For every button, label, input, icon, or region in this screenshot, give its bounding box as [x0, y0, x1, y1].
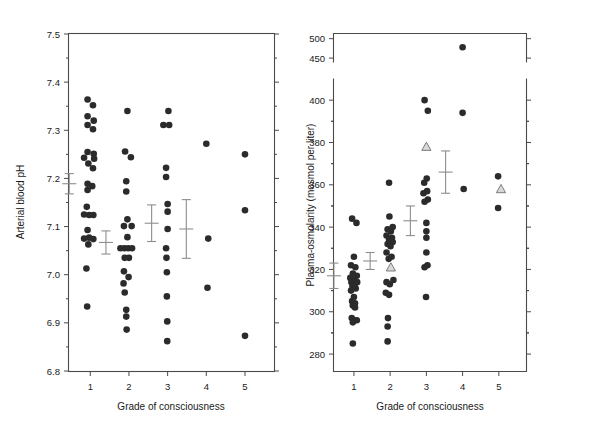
data-point — [242, 151, 249, 158]
data-point — [85, 160, 92, 167]
data-point — [90, 102, 97, 109]
osm-x-axis-title: Grade of consciousness — [376, 401, 483, 412]
data-point — [83, 265, 90, 272]
figure-two-panel-scatter: 6.86.97.07.17.27.37.47.5 12345 Arterial … — [0, 0, 591, 424]
osm-data-points — [347, 44, 506, 347]
data-point — [166, 122, 173, 129]
x-tick-label: 5 — [242, 381, 247, 392]
data-point — [121, 223, 128, 230]
osm-y-ticks — [329, 39, 531, 354]
data-point — [122, 148, 129, 155]
data-point — [84, 303, 91, 310]
x-tick-label: 1 — [88, 381, 93, 392]
data-point — [164, 338, 171, 345]
osm-plot-svg: 280300320340360380400450500 12345 Plasma… — [295, 0, 591, 424]
data-point — [495, 173, 502, 180]
data-point — [90, 126, 97, 133]
data-point — [495, 205, 502, 212]
data-point — [128, 223, 135, 230]
ph-x-axis-title: Grade of consciousness — [117, 401, 224, 412]
data-point — [123, 307, 130, 314]
y-tick-label: 6.8 — [47, 366, 60, 377]
data-point — [423, 294, 430, 301]
y-tick-label: 7.5 — [47, 29, 60, 40]
ph-data-points — [81, 96, 249, 344]
data-point — [84, 96, 91, 103]
data-point — [353, 220, 360, 227]
data-point — [459, 110, 466, 117]
data-point — [84, 227, 91, 234]
osm-y-axis-title: Plasma-osmolarity (mosmol per liter) — [305, 124, 316, 287]
y-tick-label: 7.4 — [47, 77, 60, 88]
data-point-triangle — [496, 184, 505, 192]
data-point — [123, 188, 130, 195]
y-tick-label: 7.3 — [47, 125, 60, 136]
data-point — [385, 256, 392, 263]
panel-arterial-blood-ph: 6.86.97.07.17.27.37.47.5 12345 Arterial … — [0, 0, 296, 424]
data-point — [460, 186, 467, 193]
data-point — [423, 220, 430, 227]
data-point — [84, 149, 91, 156]
data-point — [350, 319, 357, 326]
data-point — [164, 293, 171, 300]
data-point — [128, 154, 135, 161]
data-point — [205, 235, 212, 242]
data-point — [203, 140, 210, 147]
x-tick-label: 1 — [351, 381, 356, 392]
data-point — [90, 165, 97, 172]
data-point — [164, 208, 171, 215]
data-point — [126, 255, 133, 262]
data-point — [350, 340, 357, 347]
data-point — [163, 245, 170, 252]
data-point — [90, 212, 97, 219]
data-point — [84, 122, 91, 129]
data-point — [423, 249, 430, 256]
x-tick-label: 4 — [204, 381, 209, 392]
data-point — [81, 154, 88, 161]
data-point — [84, 113, 91, 120]
data-point — [123, 313, 130, 320]
y-tick-label: 7.1 — [47, 221, 60, 232]
x-tick-label: 2 — [126, 381, 131, 392]
y-tick-label: 280 — [309, 349, 325, 360]
data-point — [164, 226, 171, 233]
data-point — [164, 269, 171, 276]
data-point — [120, 280, 127, 287]
data-point — [124, 234, 131, 241]
data-point — [125, 274, 132, 281]
data-point — [421, 198, 428, 205]
y-tick-label: 400 — [309, 95, 325, 106]
data-point — [242, 207, 249, 214]
data-point — [421, 179, 428, 186]
data-point — [386, 179, 393, 186]
data-point — [165, 108, 172, 115]
data-point — [164, 318, 171, 325]
data-point — [85, 241, 92, 248]
x-tick-label: 5 — [496, 381, 501, 392]
ph-x-tick-labels: 12345 — [88, 381, 248, 392]
data-point — [423, 234, 430, 241]
data-point-triangle — [386, 263, 395, 271]
data-point — [163, 174, 170, 181]
y-tick-label-upper: 500 — [309, 33, 325, 44]
data-point — [121, 289, 128, 296]
data-point — [242, 333, 249, 340]
data-point — [383, 249, 390, 256]
y-tick-label: 6.9 — [47, 317, 60, 328]
data-point — [91, 155, 98, 162]
data-point — [384, 323, 391, 330]
data-point — [124, 108, 131, 115]
panel-plasma-osmolarity: 280300320340360380400450500 12345 Plasma… — [295, 0, 591, 424]
ph-y-tick-labels: 6.86.97.07.17.27.37.47.5 — [47, 29, 60, 377]
data-point — [123, 178, 130, 185]
data-point — [386, 292, 393, 299]
osm-plot-frame-upper — [334, 34, 527, 63]
ph-plot-svg: 6.86.97.07.17.27.37.47.5 12345 Arterial … — [0, 0, 296, 424]
data-point — [129, 245, 136, 252]
data-point — [90, 236, 97, 243]
data-point — [386, 281, 393, 288]
data-point — [83, 204, 90, 211]
y-tick-label: 7.0 — [47, 269, 60, 280]
ph-y-ticks — [64, 34, 279, 371]
data-point — [84, 187, 91, 194]
